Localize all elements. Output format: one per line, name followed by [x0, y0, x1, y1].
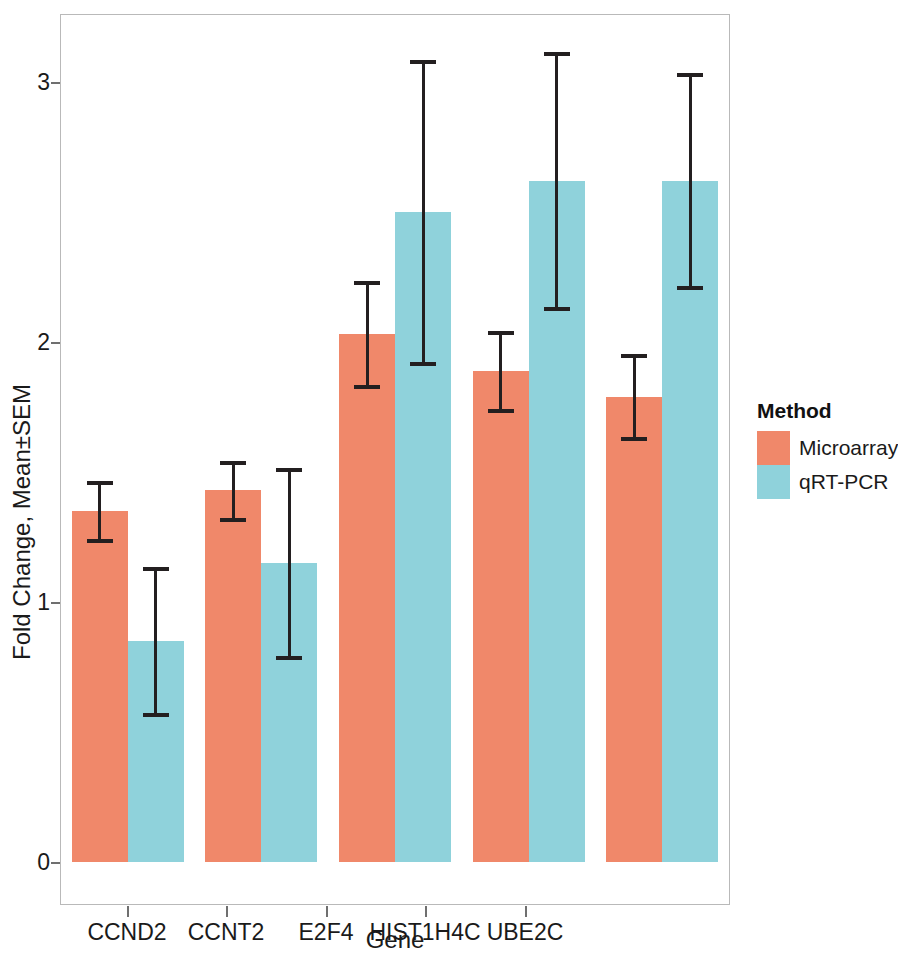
y-tick-label-2: 2	[8, 331, 50, 354]
legend-label-qrt-pcr: qRT-PCR	[799, 471, 888, 493]
x-tick-mark-ube2c	[525, 906, 527, 917]
errorcap-ccnt2-microarray-upper	[220, 461, 246, 465]
x-tick-mark-hist1h4c	[425, 906, 427, 917]
errorcap-hist1h4c-microarray-lower	[488, 409, 514, 413]
errorcap-ccnd2-qrt-pcr-upper	[143, 567, 169, 571]
x-tick-mark-e2f4	[326, 906, 328, 917]
errorcap-ube2c-qrt-pcr-upper	[677, 73, 703, 77]
errorcap-ccnd2-qrt-pcr-lower	[143, 713, 169, 717]
y-tick-label-3: 3	[8, 71, 50, 94]
legend-title: Method	[757, 400, 883, 422]
y-tick-mark-1	[51, 602, 60, 604]
legend-swatch-qrt-pcr	[757, 465, 790, 499]
y-tick-mark-0	[51, 862, 60, 864]
bar-hist1h4c-microarray	[473, 371, 529, 862]
errorbar-hist1h4c-microarray	[499, 332, 502, 410]
errorbar-ccnd2-qrt-pcr	[154, 568, 157, 714]
errorcap-ccnt2-qrt-pcr-upper	[276, 468, 302, 472]
errorcap-hist1h4c-qrt-pcr-upper	[544, 52, 570, 56]
plot-panel	[60, 14, 730, 905]
legend-item-qrt-pcr[interactable]: qRT-PCR	[757, 465, 883, 499]
bar-ccnd2-microarray	[72, 511, 128, 862]
plot-area	[61, 15, 729, 904]
y-tick-mark-2	[51, 342, 60, 344]
errorbar-e2f4-qrt-pcr	[422, 61, 425, 363]
errorcap-e2f4-microarray-upper	[354, 281, 380, 285]
errorcap-ube2c-microarray-upper	[621, 354, 647, 358]
errorcap-e2f4-qrt-pcr-upper	[410, 60, 436, 64]
errorbar-ube2c-qrt-pcr	[689, 74, 692, 287]
errorcap-hist1h4c-qrt-pcr-lower	[544, 307, 570, 311]
errorbar-ccnd2-microarray	[98, 482, 101, 539]
bar-e2f4-microarray	[339, 334, 395, 862]
x-tick-mark-ccnd2	[127, 906, 129, 917]
errorcap-ube2c-microarray-lower	[621, 437, 647, 441]
errorcap-ccnt2-qrt-pcr-lower	[276, 656, 302, 660]
legend-item-microarray[interactable]: Microarray	[757, 431, 883, 465]
errorbar-ube2c-microarray	[633, 355, 636, 438]
y-tick-label-0: 0	[8, 851, 50, 874]
errorbar-ccnt2-microarray	[232, 462, 235, 519]
x-tick-mark-ccnt2	[226, 906, 228, 917]
errorcap-e2f4-microarray-lower	[354, 385, 380, 389]
errorcap-ccnt2-microarray-lower	[220, 518, 246, 522]
errorcap-ccnd2-microarray-upper	[87, 481, 113, 485]
errorcap-e2f4-qrt-pcr-lower	[410, 362, 436, 366]
errorbar-hist1h4c-qrt-pcr	[555, 53, 558, 308]
bar-ccnt2-microarray	[205, 490, 261, 862]
errorbar-e2f4-microarray	[366, 282, 369, 386]
legend: Method Microarray qRT-PCR	[757, 400, 883, 499]
bar-ube2c-microarray	[606, 397, 662, 862]
y-axis-title: Fold Change, Mean±SEM	[8, 384, 36, 660]
legend-label-microarray: Microarray	[799, 437, 898, 459]
errorcap-ube2c-qrt-pcr-lower	[677, 286, 703, 290]
errorcap-hist1h4c-microarray-upper	[488, 331, 514, 335]
y-tick-mark-3	[51, 82, 60, 84]
errorcap-ccnd2-microarray-lower	[87, 539, 113, 543]
errorbar-ccnt2-qrt-pcr	[288, 469, 291, 656]
legend-swatch-microarray	[757, 431, 790, 465]
x-axis-title: Gene	[60, 926, 730, 954]
